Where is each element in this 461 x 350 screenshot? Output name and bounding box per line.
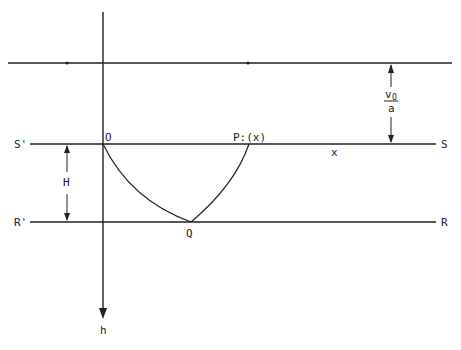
- curve-qp: [191, 144, 249, 222]
- label-origin: O: [105, 131, 112, 144]
- v0-dimension-arrow-up-icon: [388, 64, 394, 73]
- h-dimension-arrow-up-icon: [64, 145, 70, 153]
- top-line-dot-left: [66, 62, 69, 65]
- h-dimension-arrow-down-icon: [64, 213, 70, 221]
- label-s-prime: S': [14, 138, 27, 151]
- label-r: R: [441, 216, 448, 229]
- label-point-q: Q: [186, 227, 193, 240]
- label-v0-denominator: a: [388, 102, 395, 115]
- label-x: x: [331, 146, 338, 159]
- label-v0-numerator: v: [385, 88, 392, 101]
- label-axis-h: h: [100, 324, 107, 337]
- label-height: H: [63, 176, 70, 189]
- label-v0-subscript: O: [392, 93, 397, 102]
- diagram-canvas: O P:(x) Q x S' S R' R H h v O a: [0, 0, 461, 350]
- v0-dimension-arrow-down-icon: [388, 135, 394, 143]
- label-r-prime: R': [14, 216, 27, 229]
- label-s: S: [441, 138, 448, 151]
- top-line-dot-right: [247, 62, 250, 65]
- label-point-p: P:(x): [233, 131, 266, 144]
- h-axis-arrow-icon: [99, 308, 107, 319]
- curve-oq: [103, 144, 191, 222]
